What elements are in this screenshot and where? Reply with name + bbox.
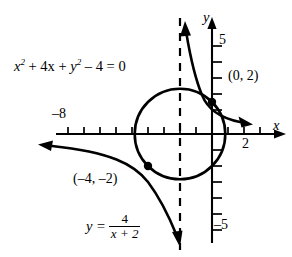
- x-tick-label-neg8: –8: [52, 107, 66, 121]
- fraction-denominator: x + 2: [109, 227, 141, 241]
- hyperbola-right-arrow: [239, 117, 254, 128]
- y-tick-label-neg5: –5: [214, 218, 228, 232]
- x-axis-label: x: [273, 118, 279, 133]
- circle-equation-label: x2 + 4x + y2 – 4 = 0: [14, 58, 126, 73]
- point-label-neg4-neg2: (–4, –2): [73, 172, 117, 186]
- coordinate-plot: [0, 0, 292, 257]
- y-axis-ticks: [212, 46, 222, 230]
- y-axis-label: y: [203, 10, 209, 25]
- x-tick-label-2: 2: [242, 137, 249, 151]
- hyperbola-fraction: 4 x + 2: [109, 212, 141, 240]
- intersection-point-neg4-neg2: [144, 162, 152, 170]
- point-label-0-2: (0, 2): [228, 69, 258, 83]
- fraction-numerator: 4: [118, 212, 131, 226]
- y-tick-label-5: 5: [219, 33, 226, 47]
- hyperbola-eq-lhs: y =: [86, 219, 106, 234]
- hyperbola-up-arrow: [180, 21, 191, 37]
- hyperbola-left-arrow: [38, 141, 53, 152]
- intersection-point-0-2: [208, 98, 216, 106]
- circle-eq-mid: + 4x +: [25, 58, 70, 74]
- x-axis: [56, 129, 286, 138]
- hyperbola-equation-label: y = 4 x + 2: [86, 212, 140, 240]
- graph-figure: x2 + 4x + y2 – 4 = 0 (0, 2) (–4, –2) x y…: [0, 0, 292, 257]
- circle-eq-rest: – 4 = 0: [81, 58, 125, 74]
- y-axis: [207, 17, 216, 243]
